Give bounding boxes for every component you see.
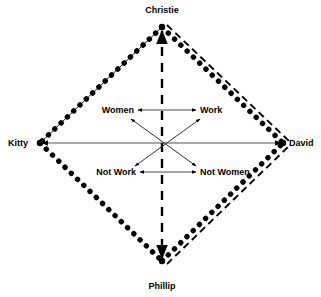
vertex-label-phillip: Phillip (149, 281, 176, 291)
semiotic-square-diagram: Christie Kitty David Phillip Women Work … (0, 0, 321, 297)
vertex-label-christie: Christie (145, 5, 179, 15)
vertex-dot-left (37, 140, 43, 146)
inner-label-not-work: Not Work (96, 167, 136, 177)
edge-top-right (162, 25, 289, 143)
inner-label-not-women: Not Women (200, 167, 250, 177)
vertex-dot-bottom (159, 258, 165, 264)
edge-bottom-left (40, 143, 162, 261)
vertex-dot-right (280, 140, 286, 146)
inner-label-women: Women (102, 105, 134, 115)
inner-label-work: Work (200, 105, 222, 115)
vertex-label-kitty: Kitty (8, 138, 28, 148)
vertex-label-david: David (289, 138, 314, 148)
vertex-dot-top (159, 24, 165, 30)
diagram-graphics (0, 0, 321, 297)
edge-bottom-right (162, 143, 289, 264)
edge-top-left (40, 27, 162, 143)
